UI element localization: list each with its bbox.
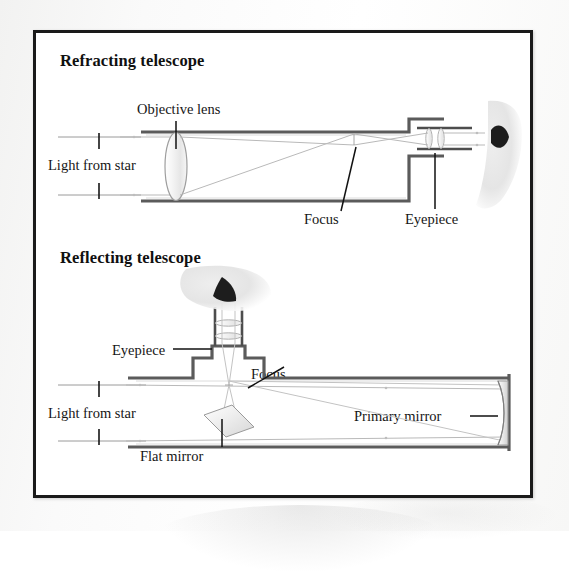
observer-eye-reflecting bbox=[180, 266, 271, 311]
incoming-rays-reflecting bbox=[126, 384, 506, 443]
reflector-eyepiece-barrel bbox=[215, 307, 242, 346]
reflector-tube bbox=[128, 346, 509, 451]
primary-mirror bbox=[498, 381, 508, 445]
light-bracket-refracting bbox=[58, 133, 141, 199]
page-bleed-through-arc-secondary bbox=[330, 495, 560, 540]
leader-lines-reflecting bbox=[173, 349, 498, 447]
figure-frame: Refracting telescope Reflecting telescop… bbox=[33, 30, 533, 498]
eyepiece-lens-element-2 bbox=[216, 333, 242, 339]
eyepiece-lens-element-1 bbox=[216, 320, 242, 326]
telescope-diagram-svg bbox=[36, 33, 536, 501]
refractor-eyepiece-barrel bbox=[417, 128, 472, 149]
light-bracket-reflecting bbox=[58, 381, 146, 445]
leader-lines-refracting bbox=[176, 121, 435, 211]
page-bleed-through-arc bbox=[150, 505, 450, 575]
eyepiece-lens-element-1 bbox=[426, 129, 432, 149]
flat-mirror bbox=[204, 405, 254, 437]
eyepiece-lens-element-2 bbox=[438, 129, 444, 149]
observer-eye-refracting bbox=[476, 101, 522, 209]
